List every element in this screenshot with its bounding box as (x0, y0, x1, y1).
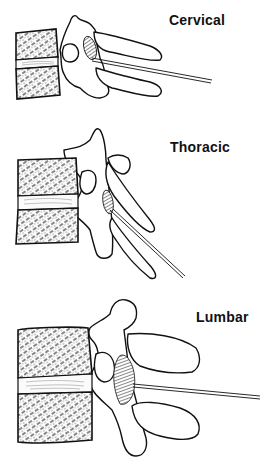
thoracic-panel: Thoracic (0, 120, 274, 285)
lumbar-lower-body (18, 392, 92, 443)
lumbar-spine-illustration (0, 288, 274, 469)
thoracic-spine-illustration (0, 120, 274, 285)
lumbar-needle (133, 384, 260, 396)
lumbar-disc (18, 374, 92, 394)
cervical-panel: Cervical (0, 0, 274, 115)
cervical-upper-body (16, 29, 58, 60)
cervical-lower-body (16, 66, 60, 99)
thoracic-lower-body (16, 208, 78, 244)
thoracic-upper-body (18, 158, 78, 196)
lumbar-upper-body (18, 327, 92, 378)
cervical-spine-illustration (0, 0, 274, 115)
lumbar-panel: Lumbar (0, 288, 274, 469)
lumbar-facet-joint (114, 355, 135, 404)
